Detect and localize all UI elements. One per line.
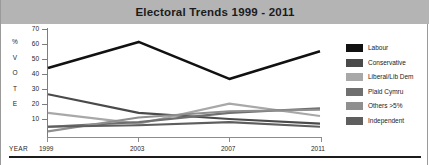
legend-label: Plaid Cymru: [368, 88, 403, 96]
legend: Labour Conservative Liberal/Lib Dem Plai…: [346, 44, 430, 125]
page-title: Electoral Trends 1999 - 2011: [135, 6, 294, 18]
legend-item-labour: Labour: [346, 44, 430, 52]
x-tick-label: 2007: [221, 145, 235, 152]
y-axis-caption-char: O: [12, 69, 17, 76]
x-tick-label: 1999: [39, 145, 53, 152]
y-tick-label: 50: [23, 55, 39, 62]
plot-area: [47, 28, 321, 136]
x-tick: [321, 137, 322, 142]
legend-label: Liberal/Lib Dem: [368, 73, 414, 81]
legend-swatch-icon: [346, 88, 363, 96]
legend-swatch-icon: [346, 117, 363, 125]
x-axis-line: [47, 137, 322, 138]
legend-swatch-icon: [346, 59, 363, 67]
y-tick-label: 10: [23, 115, 39, 122]
legend-item-independent: Independent: [346, 117, 430, 125]
y-tick-label: 20: [23, 100, 39, 107]
legend-swatch-icon: [346, 44, 363, 52]
x-tick-label: 2011: [311, 145, 325, 152]
y-tick-label: 60: [23, 40, 39, 47]
x-tick-label: 2003: [130, 145, 144, 152]
y-tick-label: 70: [23, 25, 39, 32]
legend-swatch-icon: [346, 102, 363, 110]
legend-label: Independent: [368, 117, 404, 125]
legend-label: Labour: [368, 44, 388, 52]
legend-label: Others >5%: [368, 102, 403, 110]
legend-item-liberal-lib-dem: Liberal/Lib Dem: [346, 73, 430, 81]
series-line-conservative: [48, 94, 320, 123]
y-axis-tick-labels: 70 60 50 40 30 20 10: [21, 28, 39, 140]
y-axis-caption-char: V: [13, 54, 17, 61]
series-lines: [47, 28, 321, 136]
series-line-labour: [48, 42, 320, 79]
y-axis-caption-char: %: [12, 38, 18, 45]
legend-label: Conservative: [368, 59, 406, 67]
x-tick: [138, 137, 139, 142]
title-band: Electoral Trends 1999 - 2011: [1, 0, 429, 24]
y-axis-caption: % V O T E: [9, 38, 21, 107]
legend-item-plaid-cymru: Plaid Cymru: [346, 88, 430, 96]
x-tick: [229, 137, 230, 142]
legend-item-conservative: Conservative: [346, 59, 430, 67]
legend-item-others: Others >5%: [346, 102, 430, 110]
y-tick-label: 30: [23, 85, 39, 92]
footer-divider: [9, 156, 421, 158]
x-tick: [47, 137, 48, 142]
y-axis-caption-char: T: [13, 85, 17, 92]
y-tick-label: 40: [23, 70, 39, 77]
y-axis-caption-char: E: [13, 100, 17, 107]
legend-swatch-icon: [346, 73, 363, 81]
